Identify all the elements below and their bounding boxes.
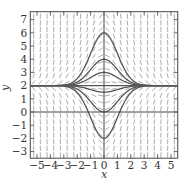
slope-segment <box>127 146 128 151</box>
slope-segment <box>67 126 68 131</box>
slope-segment <box>141 47 142 52</box>
slope-segment <box>98 101 103 103</box>
slope-segment <box>141 126 142 131</box>
slope-segment <box>73 47 74 52</box>
slope-segment <box>99 153 102 157</box>
slope-segment <box>147 73 149 78</box>
slope-segment <box>127 152 128 157</box>
slope-segment <box>91 82 96 83</box>
slope-segment <box>33 60 34 65</box>
x-tick-label: −1 <box>83 159 98 171</box>
slope-segment <box>152 81 156 85</box>
slope-segment <box>167 67 168 72</box>
slope-segment <box>47 53 48 58</box>
slope-segment <box>113 54 116 58</box>
slope-segment <box>98 48 102 51</box>
slope-segment <box>93 146 94 151</box>
slope-field-plot: −5−4−3−2−1012345−3−2−101234567 x y <box>0 0 186 184</box>
slope-segment <box>60 100 61 105</box>
slope-segment <box>33 106 34 111</box>
slope-segment <box>80 126 81 131</box>
slope-segment <box>74 34 75 39</box>
slope-segment <box>73 126 74 131</box>
slope-segment <box>147 93 149 98</box>
slope-segment <box>120 139 121 144</box>
slope-segment <box>93 27 95 32</box>
slope-segment <box>147 53 148 58</box>
slope-segment <box>161 53 162 58</box>
slope-segment <box>120 40 121 45</box>
slope-segment <box>46 73 48 78</box>
slope-segment <box>99 140 103 144</box>
slope-segment <box>53 113 54 118</box>
slope-segment <box>134 47 135 52</box>
slope-segment <box>133 93 136 97</box>
slope-segment <box>99 146 102 150</box>
slope-segment <box>99 41 103 44</box>
slope-segment <box>154 60 155 65</box>
y-tick-label: 7 <box>21 13 28 25</box>
slope-segment <box>127 34 128 39</box>
slope-segment <box>140 53 141 58</box>
slope-segment <box>60 60 61 65</box>
slope-segment <box>141 133 142 138</box>
slope-segment <box>134 113 135 118</box>
slope-segment <box>167 73 168 78</box>
slope-segment <box>147 106 148 111</box>
slope-segment <box>127 27 128 32</box>
slope-segment <box>99 28 103 32</box>
slope-segment <box>87 152 88 157</box>
slope-segment <box>153 73 155 78</box>
slope-segment <box>47 106 48 111</box>
slope-segment <box>127 40 128 45</box>
slope-segment <box>66 93 68 98</box>
slope-segment <box>87 146 88 151</box>
slope-segment <box>113 152 114 157</box>
slope-segment <box>160 100 161 105</box>
slope-segment <box>133 73 136 77</box>
slope-segment <box>147 119 148 124</box>
slope-segment <box>113 133 115 138</box>
slope-segment <box>80 60 82 65</box>
slope-segment <box>66 67 67 72</box>
slope-segment <box>93 34 95 39</box>
slope-segment <box>74 139 75 144</box>
slope-segment <box>105 127 109 130</box>
slope-segment <box>167 93 168 98</box>
x-tick-label: 4 <box>154 159 161 171</box>
slope-segment <box>87 14 88 19</box>
slope-segment <box>93 14 94 19</box>
slope-segment <box>105 114 110 117</box>
slope-segment <box>87 133 88 138</box>
slope-segment <box>98 68 103 70</box>
slope-segment <box>105 41 109 44</box>
slope-segment <box>66 100 67 105</box>
slope-segment <box>45 87 49 91</box>
slope-segment <box>98 114 103 117</box>
slope-segment <box>120 20 121 25</box>
slope-segment <box>80 146 81 151</box>
slope-segment <box>167 100 168 105</box>
slope-segment <box>147 60 148 65</box>
slope-segment <box>113 14 114 19</box>
slope-segment <box>59 93 61 98</box>
slope-segment <box>154 67 155 72</box>
slope-segment <box>40 93 41 98</box>
slope-segment <box>127 60 129 65</box>
slope-segment <box>120 47 121 52</box>
y-tick-label: 2 <box>21 79 28 91</box>
slope-segment <box>79 100 81 105</box>
slope-segment <box>80 113 81 118</box>
slope-segment <box>134 27 135 32</box>
slope-segment <box>33 93 34 98</box>
slope-segment <box>80 40 81 45</box>
slope-segment <box>53 47 54 52</box>
slope-segment <box>93 139 95 144</box>
slope-segment <box>93 133 95 138</box>
slope-segment <box>174 67 175 72</box>
slope-segment <box>52 81 56 85</box>
slope-segment <box>140 106 141 111</box>
y-axis-label: y <box>0 84 12 92</box>
slope-segment <box>67 119 68 124</box>
slope-segment <box>141 119 142 124</box>
